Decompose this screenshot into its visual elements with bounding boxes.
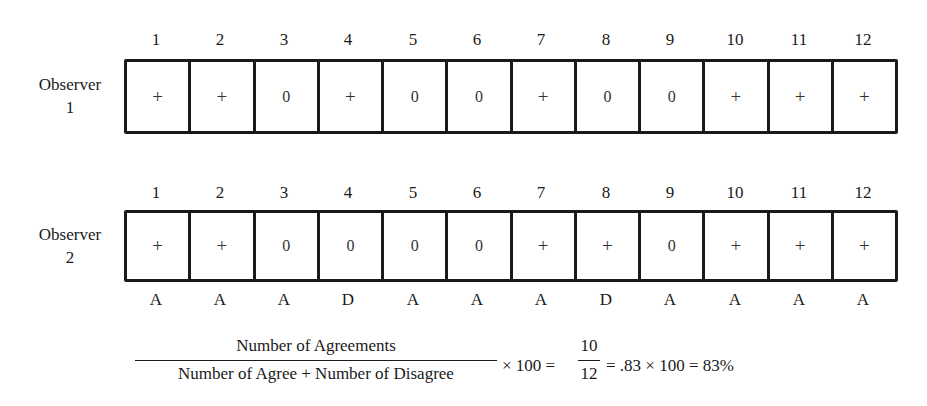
agreement-row: A A A D A A A D A A A A xyxy=(124,290,896,312)
column-number: 10 xyxy=(703,183,767,203)
fraction-denominator: Number of Agree + Number of Disagree xyxy=(135,364,497,384)
column-number: 1 xyxy=(124,183,188,203)
column-number: 2 xyxy=(188,30,252,50)
fraction-bar xyxy=(135,360,497,361)
column-number: 8 xyxy=(574,30,638,50)
column-number: 4 xyxy=(316,183,380,203)
interval-cell: + xyxy=(770,213,834,279)
interval-cell: + xyxy=(320,62,384,131)
interval-cell: + xyxy=(834,62,895,131)
column-number: 9 xyxy=(638,30,702,50)
fraction-numerator: Number of Agreements xyxy=(135,336,497,356)
interval-cell: + xyxy=(513,62,577,131)
interval-cell: 0 xyxy=(448,62,512,131)
observer-label-text: Observer xyxy=(20,73,120,96)
column-numbers-observer-1: 1 2 3 4 5 6 7 8 9 10 11 12 xyxy=(124,30,896,52)
observer-2-label: Observer 2 xyxy=(20,223,120,269)
column-number: 3 xyxy=(252,30,316,50)
interval-cell: + xyxy=(513,213,577,279)
agreement-mark: A xyxy=(831,290,895,310)
interval-cell: + xyxy=(705,62,769,131)
interval-cell: + xyxy=(191,213,255,279)
column-number: 11 xyxy=(767,30,831,50)
column-number: 2 xyxy=(188,183,252,203)
column-number: 12 xyxy=(831,30,895,50)
column-number: 8 xyxy=(574,183,638,203)
column-number: 7 xyxy=(509,30,573,50)
result-percentage: = .83 × 100 = 83% xyxy=(606,356,734,376)
interval-cell: 0 xyxy=(384,62,448,131)
agreement-mark: A xyxy=(445,290,509,310)
interval-cell: + xyxy=(705,213,769,279)
column-number: 6 xyxy=(445,30,509,50)
interval-cell: 0 xyxy=(256,213,320,279)
observer-1-recording-grid: + + 0 + 0 0 + 0 0 + + + xyxy=(124,59,898,134)
column-number: 7 xyxy=(509,183,573,203)
interval-cell: 0 xyxy=(448,213,512,279)
column-number: 9 xyxy=(638,183,702,203)
interval-cell: 0 xyxy=(256,62,320,131)
agreement-mark: A xyxy=(767,290,831,310)
column-number: 12 xyxy=(831,183,895,203)
observer-label-number: 2 xyxy=(20,246,120,269)
interval-cell: + xyxy=(127,62,191,131)
column-number: 10 xyxy=(703,30,767,50)
agreement-mark: A xyxy=(509,290,573,310)
result-fraction: 10 12 xyxy=(578,336,600,384)
column-number: 5 xyxy=(381,183,445,203)
interval-cell: + xyxy=(127,213,191,279)
interval-cell: + xyxy=(770,62,834,131)
agreement-mark: A xyxy=(188,290,252,310)
column-numbers-observer-2: 1 2 3 4 5 6 7 8 9 10 11 12 xyxy=(124,183,896,205)
observer-label-number: 1 xyxy=(20,96,120,119)
interval-cell: 0 xyxy=(577,62,641,131)
interval-cell: 0 xyxy=(641,213,705,279)
agreement-mark: D xyxy=(574,290,638,310)
observer-label-text: Observer xyxy=(20,223,120,246)
column-number: 11 xyxy=(767,183,831,203)
column-number: 6 xyxy=(445,183,509,203)
agreement-mark: D xyxy=(316,290,380,310)
column-number: 4 xyxy=(316,30,380,50)
interval-cell: 0 xyxy=(641,62,705,131)
observer-1-label: Observer 1 xyxy=(20,73,120,119)
times-100-equals: × 100 = xyxy=(502,356,555,376)
agreement-mark: A xyxy=(703,290,767,310)
column-number: 1 xyxy=(124,30,188,50)
observer-2-recording-grid: + + 0 0 0 0 + + 0 + + + xyxy=(124,210,898,282)
interval-cell: 0 xyxy=(320,213,384,279)
interval-cell: + xyxy=(577,213,641,279)
interval-cell: + xyxy=(191,62,255,131)
agreement-mark: A xyxy=(381,290,445,310)
result-fraction-numerator: 10 xyxy=(578,336,600,356)
interval-cell: 0 xyxy=(384,213,448,279)
agreement-mark: A xyxy=(124,290,188,310)
agreement-fraction: Number of Agreements Number of Agree + N… xyxy=(135,336,497,384)
agreement-mark: A xyxy=(252,290,316,310)
column-number: 5 xyxy=(381,30,445,50)
interval-cell: + xyxy=(834,213,895,279)
fraction-bar xyxy=(578,360,600,361)
agreement-mark: A xyxy=(638,290,702,310)
result-fraction-denominator: 12 xyxy=(578,364,600,384)
column-number: 3 xyxy=(252,183,316,203)
